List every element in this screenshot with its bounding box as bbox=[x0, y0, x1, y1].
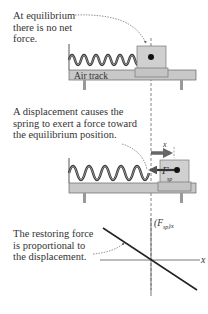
center-dot bbox=[174, 167, 180, 173]
force-label: F bbox=[161, 164, 169, 176]
force-line bbox=[103, 228, 197, 290]
force-subscript: sp bbox=[167, 176, 172, 182]
diagram-canvas: Air track x F sp (Fsp)x x bbox=[0, 0, 208, 314]
air-track-label: Air track bbox=[74, 71, 108, 81]
y-axis-label: (Fsp)x bbox=[154, 218, 175, 230]
center-dot bbox=[148, 54, 154, 60]
x-axis-label: x bbox=[200, 254, 206, 265]
force-vs-displacement-graph bbox=[93, 218, 200, 296]
leader-curve bbox=[75, 15, 146, 43]
displacement-label: x bbox=[162, 140, 167, 149]
leader-curve bbox=[122, 144, 147, 170]
leader-curve bbox=[93, 243, 124, 254]
panel2-apparatus bbox=[69, 144, 196, 203]
